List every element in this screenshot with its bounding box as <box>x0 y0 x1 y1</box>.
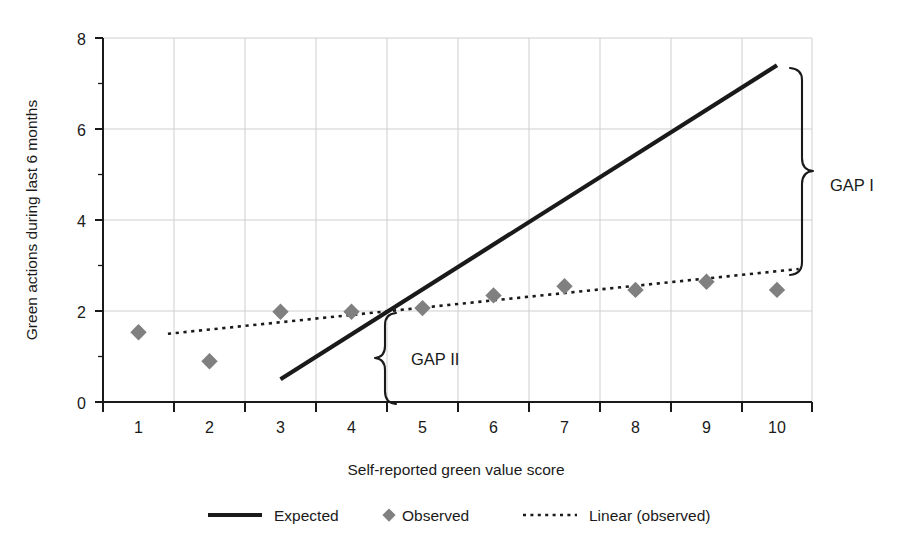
y-tick-label-8: 8 <box>77 31 86 48</box>
x-tick-label-7: 7 <box>560 419 569 436</box>
x-tick-label-1: 1 <box>134 419 143 436</box>
y-axis-major-ticks <box>95 38 103 402</box>
y-tick-label-6: 6 <box>77 122 86 139</box>
legend-swatch-observed-icon <box>382 509 395 522</box>
legend-label-linear-observed: Linear (observed) <box>589 507 710 524</box>
gap-i-label: GAP I <box>830 176 874 194</box>
x-tick-label-9: 9 <box>702 419 711 436</box>
x-axis-title: Self-reported green value score <box>347 461 564 478</box>
x-axis-ticks <box>103 402 812 412</box>
x-tick-label-2: 2 <box>205 419 214 436</box>
y-axis-title: Green actions during last 6 months <box>23 100 40 341</box>
legend-label-observed: Observed <box>402 507 469 524</box>
x-tick-label-3: 3 <box>276 419 285 436</box>
x-tick-label-5: 5 <box>418 419 427 436</box>
chart-legend: Expected Observed Linear (observed) <box>208 507 710 524</box>
chart-figure: 8 6 4 2 0 1 2 3 4 5 6 7 8 9 10 Self-repo… <box>0 0 913 548</box>
gap-ii-label: GAP II <box>411 350 459 368</box>
y-tick-label-0: 0 <box>77 395 86 412</box>
x-tick-label-10: 10 <box>768 419 786 436</box>
x-tick-label-6: 6 <box>489 419 498 436</box>
x-tick-label-4: 4 <box>347 419 356 436</box>
y-tick-label-2: 2 <box>77 304 86 321</box>
x-tick-label-8: 8 <box>631 419 640 436</box>
legend-label-expected: Expected <box>274 507 339 524</box>
y-tick-label-4: 4 <box>77 213 86 230</box>
